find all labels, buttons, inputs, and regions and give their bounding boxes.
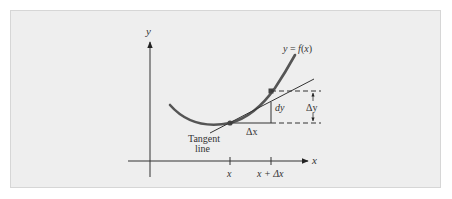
curve-label: y = f(x) bbox=[282, 43, 312, 55]
curve-f bbox=[170, 55, 295, 125]
delta-x-label: Δx bbox=[246, 126, 257, 137]
delta-y-label: Δy bbox=[306, 102, 317, 113]
dy-label: dy bbox=[275, 102, 285, 113]
tangent-diagram: y x x x + Δx y = f(x) dy Δy Δx Tangent l… bbox=[0, 0, 452, 199]
tick-label-x: x bbox=[226, 168, 232, 179]
tick-label-x-plus-dx: x + Δx bbox=[256, 168, 284, 179]
y-axis-label: y bbox=[145, 25, 151, 37]
tangent-label-line2: line bbox=[195, 143, 211, 154]
x-axis-label: x bbox=[311, 154, 317, 166]
tangent-line bbox=[210, 79, 314, 133]
